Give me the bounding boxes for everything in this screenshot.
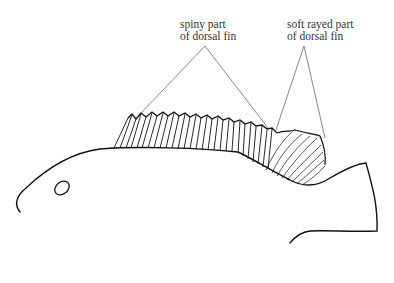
spiny-fin-edge — [128, 112, 277, 133]
spiny-fin-label-line1: spiny part — [180, 18, 236, 30]
fish-body-outline — [17, 148, 377, 243]
fish-illustration — [0, 0, 394, 283]
soft-fin-label: soft rayed part of dorsal fin — [287, 18, 353, 42]
spiny-dorsal-fin — [114, 112, 277, 169]
soft-fin-label-line2: of dorsal fin — [287, 30, 353, 42]
spiny-fin-label-line2: of dorsal fin — [180, 30, 236, 42]
fish-dorsal-fin-diagram: spiny part of dorsal fin soft rayed part… — [0, 0, 394, 283]
soft-rayed-dorsal-fin — [266, 130, 325, 185]
spiny-fin-label: spiny part of dorsal fin — [180, 18, 236, 42]
eye-icon — [52, 178, 72, 197]
soft-fin-label-line1: soft rayed part — [287, 18, 353, 30]
soft-leader-line — [276, 46, 325, 138]
